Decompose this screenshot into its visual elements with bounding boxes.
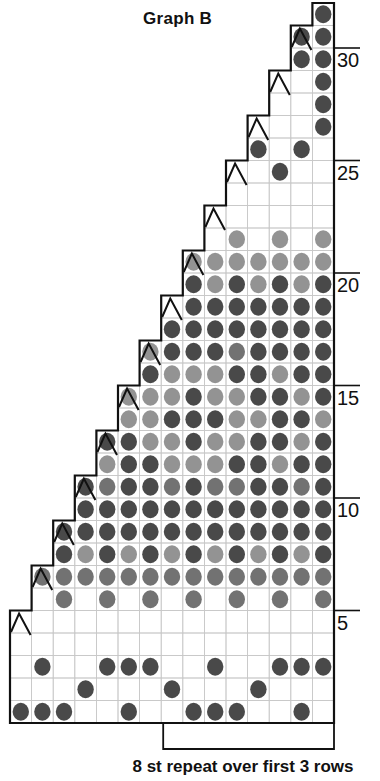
stitch-dot [272, 523, 288, 541]
grid-cell [312, 183, 334, 206]
stitch-dot [250, 455, 266, 473]
grid-cell [248, 228, 270, 251]
stitch-dot [185, 455, 201, 473]
stitch-dot [293, 703, 309, 721]
stitch-dot [207, 478, 223, 496]
stitch-dot [293, 275, 309, 293]
stitch-dot [229, 410, 245, 428]
grid-cell [161, 611, 183, 634]
stitch-dot [185, 568, 201, 586]
grid-cell [75, 588, 97, 611]
stitch-dot [315, 95, 331, 113]
grid-cell [183, 656, 205, 679]
repeat-bracket-line [163, 723, 334, 749]
row-label-20: 20 [337, 274, 359, 297]
stitch-dot [142, 388, 158, 406]
stitch-dot [250, 298, 266, 316]
stitch-dot [293, 253, 309, 271]
stitch-dot [185, 320, 201, 338]
stitch-dot [272, 320, 288, 338]
stitch-dot [272, 230, 288, 248]
stitch-dot [229, 500, 245, 518]
grid-cell [53, 611, 75, 634]
grid-cell [96, 678, 118, 701]
stitch-dot [315, 343, 331, 361]
stitch-dot [34, 658, 50, 676]
grid-cell [269, 183, 291, 206]
stitch-dot [99, 523, 115, 541]
stitch-dot [185, 500, 201, 518]
stitch-dot [56, 568, 72, 586]
stitch-dot [207, 568, 223, 586]
stitch-dot [142, 500, 158, 518]
stitch-dot [229, 478, 245, 496]
stitch-dot [229, 433, 245, 451]
grid-cell [75, 633, 97, 656]
grid-cell [312, 161, 334, 184]
stitch-dot [99, 500, 115, 518]
stitch-dot [229, 703, 245, 721]
stitch-dot [121, 545, 137, 563]
grid-cell [226, 633, 248, 656]
grid-cell [75, 611, 97, 634]
stitch-dot [164, 455, 180, 473]
stitch-dot [250, 343, 266, 361]
stitch-dot [293, 298, 309, 316]
grid-cell [10, 678, 32, 701]
stitch-dot [272, 500, 288, 518]
stitch-dot [272, 343, 288, 361]
stitch-dot [164, 545, 180, 563]
stitch-dot [207, 275, 223, 293]
stitch-dot [293, 500, 309, 518]
grid-cell [291, 588, 313, 611]
grid-cell [32, 633, 54, 656]
stitch-dot [185, 388, 201, 406]
stitch-dot [315, 275, 331, 293]
stitch-dot [293, 320, 309, 338]
grid-cell [53, 678, 75, 701]
grid-cell [204, 633, 226, 656]
decrease-caret-icon [11, 614, 31, 636]
stitch-dot [229, 343, 245, 361]
stitch-dot [142, 568, 158, 586]
stitch-dot [185, 275, 201, 293]
stitch-dot [315, 433, 331, 451]
stitch-dot [185, 410, 201, 428]
grid-cell [204, 588, 226, 611]
grid-cell [269, 93, 291, 116]
stitch-dot [99, 658, 115, 676]
stitch-dot [164, 478, 180, 496]
stitch-dot [185, 478, 201, 496]
grid-cell [183, 611, 205, 634]
stitch-dot [293, 433, 309, 451]
stitch-dot [272, 275, 288, 293]
stitch-dot [272, 568, 288, 586]
stitch-dot [164, 320, 180, 338]
stitch-dot [142, 590, 158, 608]
row-label-30: 30 [337, 49, 359, 72]
stitch-dot [293, 50, 309, 68]
stitch-dot [207, 523, 223, 541]
grid-cell [140, 611, 162, 634]
grid-cell [226, 678, 248, 701]
grid-cell [269, 678, 291, 701]
grid-cell [226, 183, 248, 206]
grid-cell [183, 678, 205, 701]
stitch-dot [315, 253, 331, 271]
grid-cell [248, 588, 270, 611]
stitch-dot [77, 500, 93, 518]
grid-cell [269, 138, 291, 161]
grid-cell [96, 633, 118, 656]
stitch-dot [121, 455, 137, 473]
grid-cell [312, 206, 334, 229]
stitch-dot [315, 410, 331, 428]
grid-cell [204, 611, 226, 634]
grid-cell [312, 633, 334, 656]
stitch-dot [272, 410, 288, 428]
stitch-dot [164, 568, 180, 586]
grid-cell [10, 633, 32, 656]
grid-cell [291, 611, 313, 634]
stitch-dot [164, 500, 180, 518]
grid-cell [161, 656, 183, 679]
stitch-dot [229, 590, 245, 608]
